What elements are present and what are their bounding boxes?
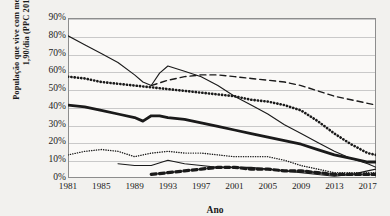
y-axis-tick-label: 50%	[32, 83, 66, 93]
y-axis-tick-label: 20%	[32, 136, 66, 146]
y-axis-tick-label: 30%	[32, 119, 66, 129]
series-lines	[68, 18, 376, 178]
series-line	[68, 105, 376, 162]
x-axis-title: Ano	[0, 205, 390, 215]
y-axis-tick-label: 60%	[32, 65, 66, 75]
chart-container: População que vive com menos de US$ 1,90…	[0, 0, 390, 216]
y-axis-tick-label: 90%	[32, 12, 66, 22]
y-axis-tick-label: 40%	[32, 101, 66, 111]
x-axis-tick-label: 2017	[348, 181, 388, 191]
y-axis-tick-label: 80%	[32, 30, 66, 40]
y-axis-tick-label: 70%	[32, 48, 66, 58]
y-axis-tick-label: 10%	[32, 154, 66, 164]
series-line	[68, 36, 376, 168]
